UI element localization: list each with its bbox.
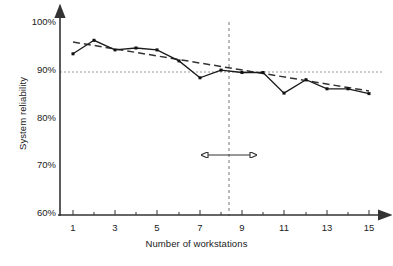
- plot-area: [0, 0, 393, 266]
- data-point: [326, 87, 329, 90]
- data-point: [241, 71, 244, 74]
- data-point: [93, 39, 96, 42]
- data-point: [156, 48, 159, 51]
- data-point-markers: [72, 39, 371, 95]
- reliability-line-series: [73, 40, 369, 93]
- data-point: [305, 78, 308, 81]
- data-point: [114, 48, 117, 51]
- data-point: [135, 47, 138, 50]
- chart-figure: System reliability Number of workstation…: [0, 0, 393, 266]
- data-point: [220, 69, 223, 72]
- data-point: [262, 71, 265, 74]
- data-point: [283, 92, 286, 95]
- data-point: [368, 92, 371, 95]
- data-point: [72, 52, 75, 55]
- data-point: [199, 76, 202, 79]
- data-point: [347, 87, 350, 90]
- data-point: [178, 59, 181, 62]
